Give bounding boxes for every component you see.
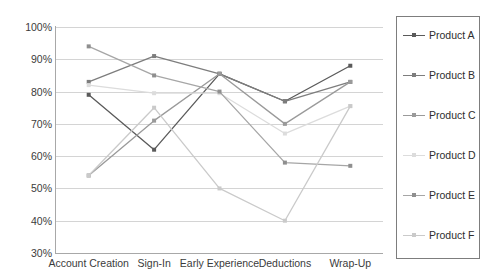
legend-swatch-icon (403, 190, 425, 200)
data-point (87, 174, 91, 178)
data-point (283, 122, 287, 126)
legend-item-product-a[interactable]: Product A (403, 28, 475, 42)
series-product-c (87, 72, 353, 178)
legend-item-product-c[interactable]: Product C (403, 108, 476, 122)
data-point (348, 104, 352, 108)
data-point (218, 90, 222, 94)
legend: Product A Product B Product C Product D (396, 16, 480, 259)
data-point (348, 164, 352, 168)
data-point (348, 64, 352, 68)
data-point (218, 186, 222, 190)
data-point (348, 80, 352, 84)
legend-label: Product F (429, 230, 475, 241)
data-point (283, 132, 287, 136)
data-point (283, 219, 287, 223)
legend-swatch-icon (403, 230, 425, 240)
legend-item-product-b[interactable]: Product B (403, 68, 475, 82)
data-point (87, 44, 91, 48)
legend-label: Product B (429, 70, 475, 81)
data-point (152, 148, 156, 152)
legend-label: Product A (429, 30, 475, 41)
data-point (87, 83, 91, 87)
line-chart: 100% 90% 80% 70% 60% 50% 40% 30% Account… (0, 0, 486, 279)
legend-item-product-f[interactable]: Product F (403, 228, 475, 242)
legend-swatch-icon (403, 30, 425, 40)
data-point (218, 72, 222, 76)
legend-item-product-e[interactable]: Product E (403, 188, 475, 202)
data-point (152, 54, 156, 58)
data-point (152, 106, 156, 110)
legend-label: Product C (429, 110, 476, 121)
legend-label: Product D (429, 150, 476, 161)
legend-swatch-icon (403, 70, 425, 80)
data-point (152, 91, 156, 95)
data-point (283, 99, 287, 103)
series-product-a (87, 64, 353, 152)
legend-item-product-d[interactable]: Product D (403, 148, 476, 162)
data-point (283, 161, 287, 165)
series-line (89, 74, 351, 176)
data-point (152, 73, 156, 77)
legend-swatch-icon (403, 110, 425, 120)
legend-label: Product E (429, 190, 475, 201)
data-point (152, 119, 156, 123)
series-product-b (87, 54, 353, 103)
legend-swatch-icon (403, 150, 425, 160)
data-point (87, 93, 91, 97)
series-line (89, 46, 351, 165)
